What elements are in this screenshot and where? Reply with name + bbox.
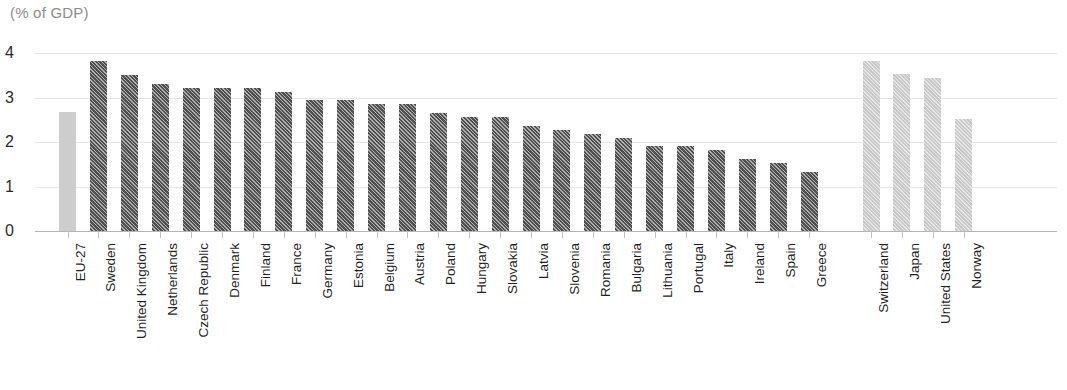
- x-axis-label-japan: Japan: [908, 243, 922, 280]
- x-axis-label-text: United Kingdom: [135, 243, 149, 339]
- x-axis-label-united-states: United States: [939, 243, 953, 324]
- x-axis-label-text: Belgium: [383, 243, 397, 292]
- bar-belgium: [368, 104, 385, 231]
- x-axis-label-netherlands: Netherlands: [166, 243, 180, 316]
- x-axis-label-text: Sweden: [104, 243, 118, 292]
- x-axis-tick: [438, 231, 439, 238]
- bar-italy: [708, 150, 725, 231]
- x-axis-label-sweden: Sweden: [104, 243, 118, 292]
- x-axis-label-text: Latvia: [537, 243, 551, 279]
- bar-united-kingdom: [121, 75, 138, 231]
- x-axis-tick: [871, 231, 872, 238]
- x-axis-tick: [253, 231, 254, 238]
- x-axis-tick: [655, 231, 656, 238]
- bar-switzerland: [863, 61, 880, 231]
- x-axis-label-text: Switzerland: [877, 243, 891, 313]
- x-axis-tick: [160, 231, 161, 238]
- bar-eu-27: [59, 112, 76, 231]
- x-axis-label-text: Estonia: [352, 243, 366, 288]
- x-axis-tick: [933, 231, 934, 238]
- x-axis-tick: [809, 231, 810, 238]
- x-axis-label-text: Spain: [784, 243, 798, 278]
- x-axis-label-text: United States: [939, 243, 953, 324]
- x-axis-label-text: Portugal: [692, 243, 706, 293]
- x-axis-label-text: Norway: [970, 243, 984, 289]
- bar-lithuania: [646, 146, 663, 231]
- bar-bulgaria: [615, 138, 632, 231]
- x-axis-label-hungary: Hungary: [475, 243, 489, 294]
- x-axis-label-text: Finland: [259, 243, 273, 287]
- bar-finland: [244, 88, 261, 231]
- x-axis-label-text: France: [290, 243, 304, 285]
- x-axis-label-text: Greece: [815, 243, 829, 287]
- bar-united-states: [924, 78, 941, 231]
- chart-unit-title: (% of GDP): [10, 4, 89, 21]
- x-axis-label-belgium: Belgium: [383, 243, 397, 292]
- bar-slovenia: [553, 130, 570, 231]
- x-axis-tick: [222, 231, 223, 238]
- bar-poland: [430, 113, 447, 231]
- x-axis-label-germany: Germany: [321, 243, 335, 299]
- x-axis-tick: [964, 231, 965, 238]
- bar-netherlands: [152, 84, 169, 231]
- plot-area: [35, 53, 1057, 231]
- gridline: [35, 231, 1057, 232]
- x-axis-label-text: Czech Republic: [197, 243, 211, 338]
- x-axis-label-text: Slovenia: [568, 243, 582, 295]
- x-axis-label-bulgaria: Bulgaria: [630, 243, 644, 293]
- x-axis-tick: [531, 231, 532, 238]
- y-axis-tick-label: 0: [0, 222, 14, 240]
- x-axis-tick: [686, 231, 687, 238]
- x-axis-label-text: Bulgaria: [630, 243, 644, 293]
- bar-japan: [893, 74, 910, 231]
- x-axis-label-text: Denmark: [228, 243, 242, 298]
- bar-hungary: [461, 117, 478, 231]
- x-axis-tick: [191, 231, 192, 238]
- y-axis-tick-label: 4: [0, 44, 14, 62]
- x-axis-tick: [500, 231, 501, 238]
- x-axis-tick: [346, 231, 347, 238]
- x-axis-label-switzerland: Switzerland: [877, 243, 891, 313]
- x-axis-label-france: France: [290, 243, 304, 285]
- x-axis-tick: [747, 231, 748, 238]
- x-axis-label-eu-27: EU-27: [74, 243, 88, 281]
- x-axis-label-text: Romania: [599, 243, 613, 297]
- x-axis-label-ireland: Ireland: [753, 243, 767, 284]
- x-axis-tick: [315, 231, 316, 238]
- bar-norway: [955, 119, 972, 231]
- x-axis-label-estonia: Estonia: [352, 243, 366, 288]
- bar-france: [275, 92, 292, 231]
- y-axis-tick-label: 1: [0, 178, 14, 196]
- bar-estonia: [337, 100, 354, 231]
- x-axis-label-norway: Norway: [970, 243, 984, 289]
- x-axis-label-text: Ireland: [753, 243, 767, 284]
- x-axis-label-romania: Romania: [599, 243, 613, 297]
- x-axis-tick: [407, 231, 408, 238]
- x-axis-label-poland: Poland: [444, 243, 458, 285]
- x-axis-tick: [129, 231, 130, 238]
- bar-ireland: [739, 159, 756, 231]
- x-axis-label-slovakia: Slovakia: [506, 243, 520, 294]
- bar-portugal: [677, 146, 694, 231]
- y-axis-tick-label: 2: [0, 133, 14, 151]
- x-axis-tick: [562, 231, 563, 238]
- x-axis-label-text: Slovakia: [506, 243, 520, 294]
- y-axis-tick-label: 3: [0, 89, 14, 107]
- bar-denmark: [214, 88, 231, 231]
- bar-spain: [770, 163, 787, 231]
- bar-latvia: [523, 126, 540, 231]
- bar-czech-republic: [183, 88, 200, 231]
- x-axis-label-spain: Spain: [784, 243, 798, 278]
- bar-greece: [801, 172, 818, 231]
- x-axis-label-text: Austria: [413, 243, 427, 285]
- x-axis-tick: [593, 231, 594, 238]
- x-axis-label-text: Hungary: [475, 243, 489, 294]
- x-axis-label-latvia: Latvia: [537, 243, 551, 279]
- bar-slovakia: [492, 117, 509, 231]
- x-axis-label-portugal: Portugal: [692, 243, 706, 293]
- bar-romania: [584, 134, 601, 231]
- x-axis-label-finland: Finland: [259, 243, 273, 287]
- x-axis-label-slovenia: Slovenia: [568, 243, 582, 295]
- x-axis-label-text: Germany: [321, 243, 335, 299]
- x-axis-label-united-kingdom: United Kingdom: [135, 243, 149, 339]
